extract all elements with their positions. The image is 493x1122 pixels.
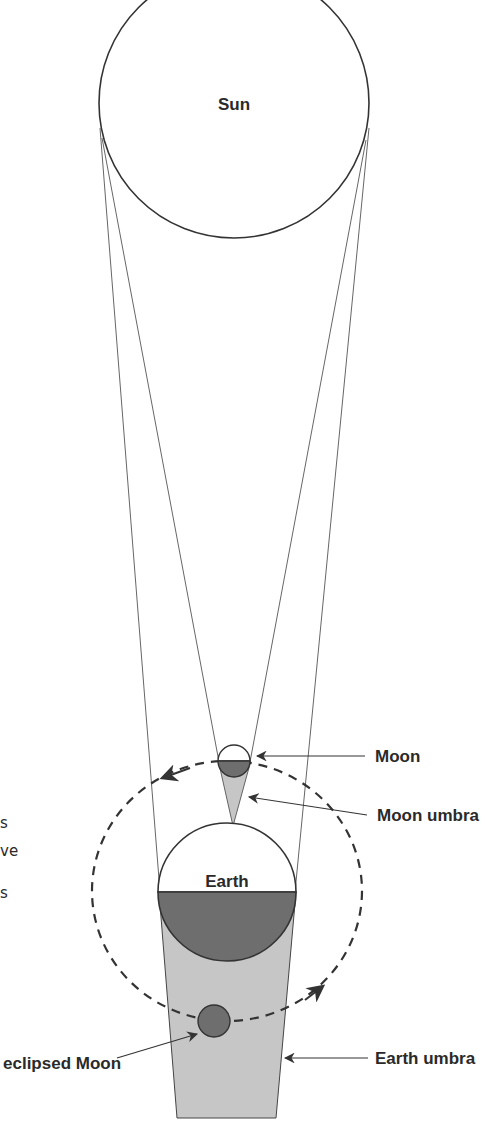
eclipse-diagram: Sun Earth Moon Moon umbra Earth umbra ec… [0, 0, 493, 1122]
eclipsed-moon [198, 1005, 230, 1037]
edge-text-fragment: s [0, 814, 8, 832]
moon-umbra-callout-arrow [249, 797, 367, 815]
edge-text-fragment: s [0, 884, 8, 902]
eclipsed-moon-callout-label: eclipsed Moon [3, 1054, 121, 1073]
edge-text-fragment: ve [0, 842, 18, 860]
earth-umbra-callout-label: Earth umbra [375, 1049, 476, 1068]
earth-label: Earth [205, 872, 248, 891]
sun [99, 0, 369, 238]
earth [158, 823, 296, 961]
moon-umbra-callout-label: Moon umbra [377, 806, 480, 825]
moon [218, 745, 250, 777]
moon-callout-label: Moon [375, 747, 420, 766]
sun-label: Sun [218, 95, 250, 114]
